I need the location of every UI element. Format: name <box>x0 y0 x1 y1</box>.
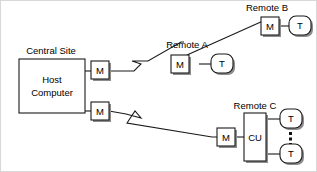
remote-a-terminal-label: T <box>219 58 225 69</box>
host-computer-label-line1: Host <box>42 74 62 85</box>
remote-b-label: Remote B <box>246 2 288 13</box>
central-modem-bottom-label: M <box>96 106 104 117</box>
remote-c-modem-label: M <box>222 132 230 143</box>
remote-c-terminal-top-label: T <box>288 113 294 124</box>
link-central-to-remote-c <box>109 111 217 137</box>
remote-b-terminal-label: T <box>297 20 303 31</box>
remote-a-label: Remote A <box>166 39 208 50</box>
host-computer-box <box>19 59 85 113</box>
remote-b-modem-label: M <box>266 21 274 32</box>
host-computer-label-line2: Computer <box>31 87 73 98</box>
central-modem-top-label: M <box>96 65 104 76</box>
remote-c-label: Remote C <box>234 100 277 111</box>
remote-a-modem-label: M <box>176 59 184 70</box>
remote-c-terminal-bottom-label: T <box>288 148 294 159</box>
remote-c-cu-label: CU <box>248 132 262 143</box>
central-site-label: Central Site <box>26 45 76 56</box>
network-diagram-canvas: Central Site Host Computer M M Remote A … <box>1 1 317 172</box>
network-diagram: Central Site Host Computer M M Remote A … <box>0 0 317 172</box>
